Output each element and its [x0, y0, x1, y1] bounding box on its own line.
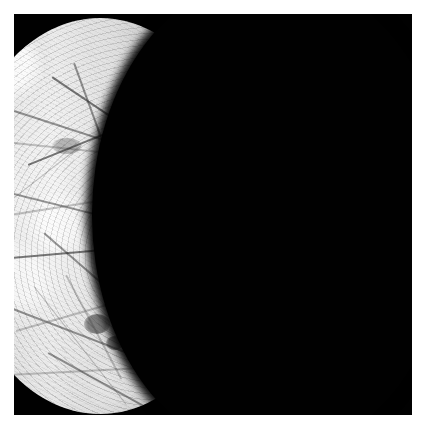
terminator-night-side	[92, 14, 412, 415]
moon-crescent	[14, 14, 412, 415]
photograph-frame: Europa — crescent phase	[0, 0, 427, 430]
dark-surface-blotch	[52, 138, 82, 154]
space-background	[14, 14, 412, 415]
dark-surface-blotch	[84, 314, 110, 334]
